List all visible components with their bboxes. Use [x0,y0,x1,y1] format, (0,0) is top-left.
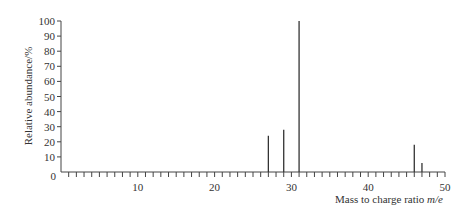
axes: 10203040506070809010001020304050 [39,15,452,193]
spectrum-peaks [268,21,422,172]
y-tick-label: 80 [44,45,56,57]
mass-spectrum-chart: 10203040506070809010001020304050 Relativ… [0,0,470,213]
x-tick-label: 30 [286,181,298,193]
y-tick-label: 20 [44,136,56,148]
y-tick-label: 100 [39,15,56,27]
x-tick-label: 50 [440,181,452,193]
y-tick-label: 30 [44,121,56,133]
y-tick-label: 60 [44,75,56,87]
x-tick-label: 20 [209,181,221,193]
y-tick-label: 10 [44,151,56,163]
y-tick-label: 70 [44,60,56,72]
y-axis-label: Relative abundance/% [22,47,34,146]
x-tick-label: 40 [363,181,375,193]
x-axis-label: Mass to charge ratio m/e [335,193,443,205]
y-tick-label: 90 [44,30,56,42]
y-tick-label: 40 [44,106,56,118]
origin-label: 0 [51,170,57,182]
x-tick-label: 10 [132,181,144,193]
y-tick-label: 50 [44,91,56,103]
